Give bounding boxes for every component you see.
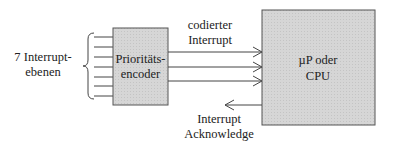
cpu-label-line2: CPU [306,69,330,83]
encoded-arrows [168,47,262,86]
encoded-label-line2: Interrupt [188,33,232,47]
inputs-label-line2: ebenen [25,65,61,79]
acknowledge-label-line1: Interrupt [197,112,241,126]
encoded-label-line1: codierter [188,18,233,32]
encoder-label-line2: encoder [121,67,161,81]
acknowledge-label-line2: Acknowledge [184,127,254,141]
inputs-label-line1: 7 Interrupt- [14,50,71,64]
cpu-label-line1: µP oder [298,53,338,67]
interrupt-diagram: 7 Interrupt- ebenen Prioritäts- encoder … [0,0,393,146]
input-lines [94,37,113,96]
encoder-label-line1: Prioritäts- [116,52,166,66]
curly-brace-icon [83,33,94,99]
cpu-box [262,10,375,125]
